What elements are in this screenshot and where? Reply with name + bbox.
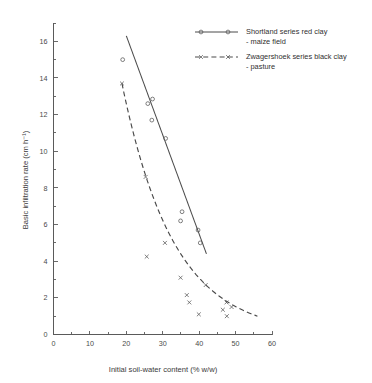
zwagershoek-fit-curve — [122, 83, 257, 316]
x-tick-label: 40 — [195, 339, 203, 348]
data-point-circle — [179, 219, 183, 223]
x-tick-label: 10 — [86, 339, 94, 348]
infiltration-rate-scatter-chart: 0102030405060 0246810121416 Initial soil… — [0, 0, 372, 383]
y-axis-title: Basic infiltration rate (cm h⁻¹) — [21, 130, 30, 229]
data-point-cross — [145, 255, 149, 259]
axes-group — [54, 23, 273, 335]
data-point-circle — [151, 97, 155, 101]
x-axis-ticks — [54, 331, 273, 335]
legend-entry-shortland: Shortland series red clay - maize field — [195, 27, 328, 46]
y-axis-ticks — [54, 23, 58, 335]
y-tick-label: 2 — [44, 293, 48, 302]
data-point-circle — [146, 102, 150, 106]
data-point-cross — [179, 276, 183, 280]
legend-marker-open-circle — [195, 30, 238, 34]
legend-label-shortland-line1: Shortland series red clay — [246, 27, 328, 36]
x-tick-label: 30 — [159, 339, 167, 348]
x-tick-label: 50 — [232, 339, 240, 348]
series-fit-lines — [122, 36, 257, 316]
x-tick-label: 60 — [268, 339, 276, 348]
data-point-circle — [121, 58, 125, 62]
legend-marker-cross — [195, 55, 238, 59]
y-axis-tick-labels: 0246810121416 — [40, 37, 48, 339]
data-point-cross — [230, 305, 234, 309]
shortland-fit-line — [126, 36, 206, 254]
shortland-data-points — [121, 58, 202, 245]
data-point-circle — [150, 118, 154, 122]
y-tick-label: 0 — [44, 330, 48, 339]
data-point-cross — [185, 293, 189, 297]
data-point-circle — [180, 210, 184, 214]
x-tick-label: 0 — [52, 339, 56, 348]
data-point-cross — [204, 283, 208, 287]
legend-label-zwagershoek-line1: Zwagershoek series black clay — [246, 52, 347, 61]
legend-label-shortland-line2: - maize field — [246, 37, 286, 46]
y-tick-label: 14 — [40, 74, 48, 83]
y-tick-label: 12 — [40, 110, 48, 119]
y-tick-label: 8 — [44, 184, 48, 193]
y-tick-label: 16 — [40, 37, 48, 46]
x-axis-title: Initial soil-water content (% w/w) — [109, 365, 218, 374]
data-point-cross — [221, 308, 225, 312]
chart-figure: 0102030405060 0246810121416 Initial soil… — [0, 0, 372, 383]
y-tick-label: 4 — [44, 257, 48, 266]
zwagershoek-data-points — [120, 82, 234, 319]
data-point-cross — [225, 314, 229, 318]
data-point-cross — [163, 241, 167, 245]
data-point-cross — [187, 300, 191, 304]
y-tick-label: 10 — [40, 147, 48, 156]
data-point-circle — [198, 241, 202, 245]
legend-label-zwagershoek-line2: - pasture — [246, 62, 275, 71]
y-tick-label: 6 — [44, 220, 48, 229]
x-tick-label: 20 — [122, 339, 130, 348]
chart-legend: Shortland series red clay - maize field … — [195, 27, 347, 71]
x-axis-tick-labels: 0102030405060 — [52, 339, 277, 348]
legend-entry-zwagershoek: Zwagershoek series black clay - pasture — [195, 52, 347, 71]
data-point-cross — [197, 312, 201, 316]
